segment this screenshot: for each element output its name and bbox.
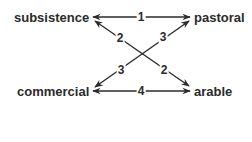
node-pastoral: pastoral — [194, 11, 245, 24]
node-commercial: commercial — [17, 85, 89, 98]
edge-label-4: 4 — [137, 85, 146, 97]
edge-label-3-end: 3 — [159, 31, 168, 43]
edge-label-2-start: 2 — [116, 32, 125, 44]
node-arable: arable — [194, 85, 232, 98]
edge-label-2-end: 2 — [160, 64, 169, 76]
node-subsistence: subsistence — [14, 11, 89, 24]
edge-label-3-start: 3 — [117, 64, 126, 76]
diagram-canvas: subsistence pastoral commercial arable 1… — [0, 0, 252, 142]
edge-label-1: 1 — [137, 11, 146, 23]
